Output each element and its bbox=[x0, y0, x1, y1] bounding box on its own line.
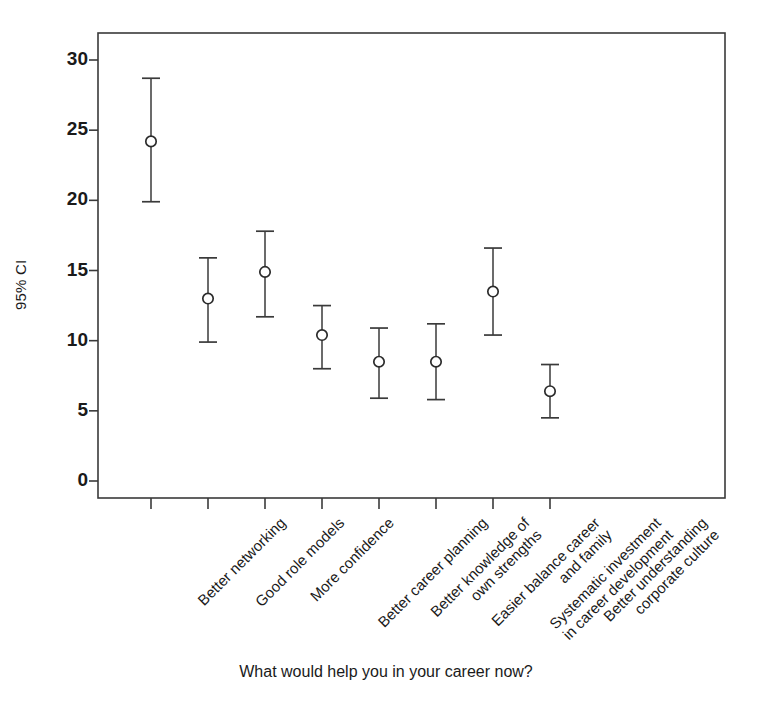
data-point-marker bbox=[203, 293, 213, 303]
data-point-marker bbox=[431, 357, 441, 367]
data-point-marker bbox=[545, 386, 555, 396]
data-point-marker bbox=[260, 267, 270, 277]
plot-frame bbox=[98, 33, 725, 498]
data-point-marker bbox=[374, 357, 384, 367]
x-axis-title: What would help you in your career now? bbox=[0, 663, 772, 681]
chart-figure: 95% CI 051015202530 Better networking: 2… bbox=[0, 0, 772, 704]
plot-area: Better networking: 24.2 (19.9–28.7)Good … bbox=[0, 0, 772, 704]
data-point-marker bbox=[146, 136, 156, 146]
data-point-marker bbox=[317, 330, 327, 340]
data-point-marker bbox=[488, 286, 498, 296]
